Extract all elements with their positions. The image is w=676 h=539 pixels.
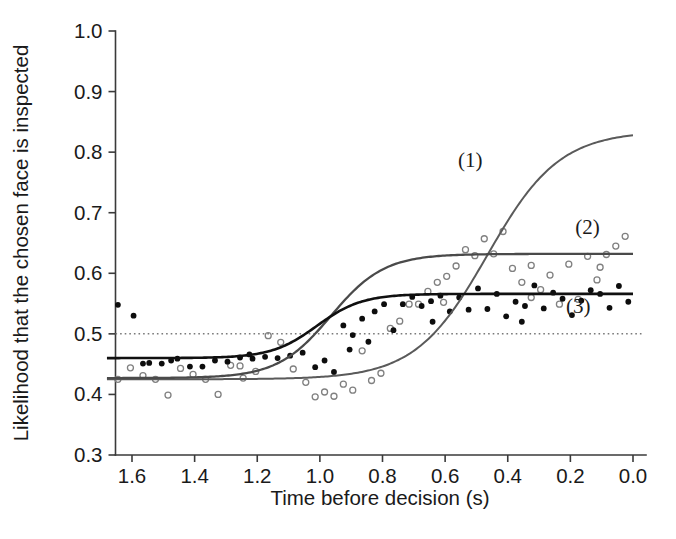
filled-point-5 bbox=[187, 364, 193, 370]
curve-label-2: (2) bbox=[575, 215, 600, 239]
open-point-41 bbox=[547, 272, 553, 278]
y-tick-label-6: 0.9 bbox=[74, 80, 103, 103]
y-axis-label: Likelihood that the chosen face is inspe… bbox=[9, 45, 32, 442]
open-point-26 bbox=[406, 301, 412, 307]
x-tick-label-8: 0.0 bbox=[619, 464, 648, 487]
filled-point-53 bbox=[347, 347, 353, 353]
open-point-16 bbox=[312, 394, 318, 400]
scatter-filled-dots bbox=[115, 283, 631, 375]
filled-point-49 bbox=[625, 299, 631, 305]
y-tick-label-1: 0.4 bbox=[74, 382, 103, 405]
filled-point-21 bbox=[366, 339, 372, 345]
curve-annotations: (1)(2)(3) bbox=[458, 148, 600, 317]
filled-point-12 bbox=[275, 355, 281, 361]
filled-point-24 bbox=[391, 327, 397, 333]
filled-point-19 bbox=[350, 332, 356, 338]
filled-point-33 bbox=[475, 286, 481, 292]
x-tick-label-6: 0.4 bbox=[494, 464, 523, 487]
open-point-50 bbox=[237, 363, 243, 369]
y-tick-label-3: 0.6 bbox=[74, 261, 103, 284]
filled-point-25 bbox=[400, 301, 406, 307]
open-point-14 bbox=[290, 366, 296, 372]
open-point-13 bbox=[278, 339, 284, 345]
fitted-curve-2 bbox=[107, 254, 633, 378]
open-point-31 bbox=[453, 263, 459, 269]
filled-point-23 bbox=[381, 301, 387, 307]
open-point-49 bbox=[622, 233, 628, 239]
x-axis-label: Time before decision (s) bbox=[270, 486, 489, 509]
filled-point-55 bbox=[519, 319, 525, 325]
axis-ticks bbox=[109, 31, 634, 462]
filled-point-2 bbox=[146, 360, 152, 366]
filled-point-22 bbox=[372, 309, 378, 315]
open-point-39 bbox=[528, 262, 534, 268]
filled-point-37 bbox=[513, 299, 519, 305]
figure-container: 1.61.41.21.00.80.60.40.20.0 0.30.40.50.6… bbox=[0, 0, 676, 539]
filled-point-38 bbox=[522, 303, 528, 309]
x-tick-label-0: 1.6 bbox=[118, 464, 147, 487]
y-tick-label-7: 1.0 bbox=[74, 19, 103, 42]
x-tick-label-2: 1.2 bbox=[243, 464, 272, 487]
y-tick-label-5: 0.8 bbox=[74, 140, 103, 163]
open-point-52 bbox=[528, 295, 534, 301]
y-tick-label-2: 0.5 bbox=[74, 322, 103, 345]
open-point-19 bbox=[340, 381, 346, 387]
open-point-37 bbox=[509, 265, 515, 271]
open-point-22 bbox=[369, 378, 375, 384]
filled-point-8 bbox=[225, 359, 231, 365]
y-tick-label-4: 0.7 bbox=[74, 201, 103, 224]
x-tick-labels: 1.61.41.21.00.80.60.40.20.0 bbox=[118, 464, 648, 487]
filled-point-27 bbox=[419, 303, 425, 309]
curve-label-1: (1) bbox=[458, 148, 483, 172]
filled-point-40 bbox=[541, 306, 547, 312]
filled-point-54 bbox=[430, 319, 436, 325]
open-point-15 bbox=[303, 379, 309, 385]
filled-point-28 bbox=[428, 298, 434, 304]
x-tick-label-1: 1.4 bbox=[180, 464, 209, 487]
filled-point-45 bbox=[588, 287, 594, 293]
open-point-4 bbox=[165, 392, 171, 398]
open-point-25 bbox=[397, 318, 403, 324]
open-point-29 bbox=[434, 279, 440, 285]
open-point-46 bbox=[594, 277, 600, 283]
open-point-38 bbox=[519, 279, 525, 285]
x-tick-label-3: 1.0 bbox=[306, 464, 335, 487]
open-point-43 bbox=[566, 261, 572, 267]
filled-point-32 bbox=[466, 307, 472, 313]
filled-point-48 bbox=[616, 283, 622, 289]
filled-point-39 bbox=[531, 283, 537, 289]
open-point-53 bbox=[597, 264, 603, 270]
open-point-17 bbox=[322, 389, 328, 395]
filled-point-50 bbox=[140, 361, 146, 367]
open-point-40 bbox=[538, 287, 544, 293]
filled-point-34 bbox=[485, 306, 491, 312]
filled-point-17 bbox=[331, 369, 337, 375]
filled-point-16 bbox=[322, 358, 328, 364]
y-tick-labels: 0.30.40.50.60.70.80.91.0 bbox=[74, 19, 103, 466]
filled-point-11 bbox=[262, 354, 268, 360]
fitted-curve-3 bbox=[107, 294, 633, 358]
y-tick-label-0: 0.3 bbox=[74, 443, 103, 466]
filled-point-36 bbox=[503, 313, 509, 319]
open-point-42 bbox=[556, 301, 562, 307]
open-point-48 bbox=[613, 243, 619, 249]
filled-point-6 bbox=[200, 364, 206, 370]
curve-label-3: (3) bbox=[566, 294, 591, 318]
filled-point-3 bbox=[159, 361, 165, 367]
open-point-30 bbox=[444, 273, 450, 279]
filled-point-15 bbox=[312, 364, 318, 370]
open-point-8 bbox=[215, 391, 221, 397]
filled-point-1 bbox=[131, 313, 137, 319]
filled-point-20 bbox=[359, 316, 365, 322]
open-point-34 bbox=[481, 236, 487, 242]
filled-point-0 bbox=[115, 302, 121, 308]
open-point-18 bbox=[331, 393, 337, 399]
filled-point-14 bbox=[300, 350, 306, 356]
open-point-21 bbox=[359, 348, 365, 354]
open-point-5 bbox=[178, 365, 184, 371]
filled-point-47 bbox=[607, 305, 613, 311]
open-point-32 bbox=[462, 247, 468, 253]
open-point-20 bbox=[350, 387, 356, 393]
chart-canvas: 1.61.41.21.00.80.60.40.20.0 0.30.40.50.6… bbox=[0, 0, 676, 539]
filled-point-18 bbox=[340, 322, 346, 328]
